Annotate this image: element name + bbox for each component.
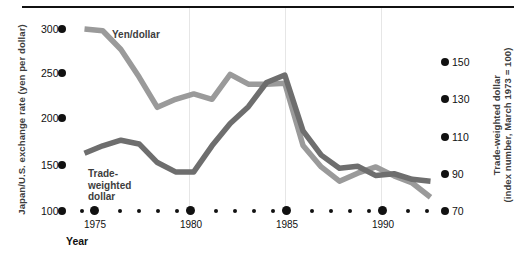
annotation-twd-line2: weighted xyxy=(88,180,131,191)
annotation-twd-line1: Trade- xyxy=(88,168,118,179)
chart-figure: Japan/U.S. exchange rate (yen per dollar… xyxy=(0,0,517,253)
annotation-yen-dollar: Yen/dollar xyxy=(112,29,160,41)
annotation-twd-line3: dollar xyxy=(88,191,115,202)
series-line-yen-dollar xyxy=(85,29,431,197)
annotation-trade-weighted-dollar: Trade- weighted dollar xyxy=(88,168,131,203)
plot-area xyxy=(0,0,517,253)
